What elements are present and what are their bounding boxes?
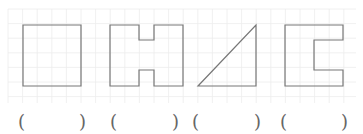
answer-blank-open-paren: ( xyxy=(110,111,117,133)
answer-blank-close-paren: ) xyxy=(341,111,348,133)
answer-blank-close-paren: ) xyxy=(79,111,86,133)
answer-blank-close-paren: ) xyxy=(172,111,179,133)
h-shape xyxy=(110,25,183,86)
shape-grid-diagram xyxy=(0,0,363,134)
answer-blank-open-paren: ( xyxy=(192,111,199,133)
answer-blank-open-paren: ( xyxy=(280,111,287,133)
background-grid xyxy=(8,9,356,103)
shapes-group xyxy=(23,25,343,86)
c-shape xyxy=(285,25,343,86)
answer-blank-close-paren: ) xyxy=(254,111,261,133)
answer-blank-open-paren: ( xyxy=(18,111,25,133)
